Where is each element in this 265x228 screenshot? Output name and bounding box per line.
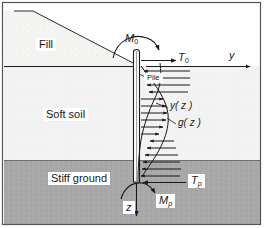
pile-label: Pile bbox=[144, 73, 163, 83]
soil-reaction-curve-arg: ( z ) bbox=[184, 117, 201, 128]
pile-soil-interaction-diagram: Fill Soft soil Stiff ground Pile M0 T0 y… bbox=[0, 0, 265, 228]
moment-head-symbol: M bbox=[125, 32, 134, 44]
z-axis-label: z bbox=[123, 201, 135, 214]
y-axis-label: y bbox=[229, 50, 235, 61]
shear-tip-label: Tp bbox=[188, 174, 205, 188]
moment-tip-label: Mp bbox=[156, 194, 175, 208]
shear-tip-symbol: T bbox=[191, 174, 198, 186]
soil-reaction-curve-label: g( z ) bbox=[178, 118, 201, 128]
moment-tip-subscript: p bbox=[168, 199, 172, 208]
deflection-curve-arg: ( z ) bbox=[175, 100, 192, 111]
layer-label-fill: Fill bbox=[36, 38, 56, 51]
deflection-curve-label: y( z ) bbox=[170, 101, 192, 111]
shear-head-subscript: 0 bbox=[185, 56, 189, 65]
stiff-ground-body bbox=[4, 160, 261, 224]
layer-label-stiff-ground: Stiff ground bbox=[48, 172, 110, 185]
moment-head-label: M0 bbox=[125, 33, 138, 45]
shear-head-label: T0 bbox=[178, 52, 189, 64]
layer-label-soft-soil: Soft soil bbox=[43, 108, 88, 121]
fill-body bbox=[4, 11, 136, 66]
moment-tip-symbol: M bbox=[159, 194, 168, 206]
shear-tip-subscript: p bbox=[198, 179, 202, 188]
shear-head-symbol: T bbox=[178, 51, 185, 63]
moment-head-subscript: 0 bbox=[134, 37, 138, 46]
